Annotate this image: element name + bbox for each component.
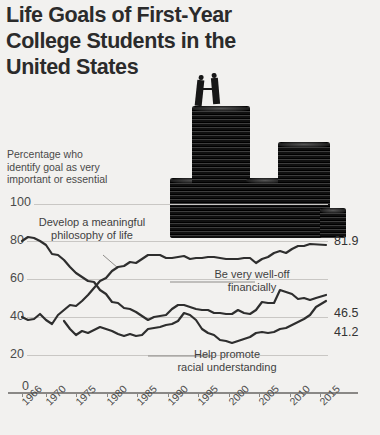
handshake-icon [202, 88, 215, 90]
annotation-racial-line-2: racial understanding [152, 361, 302, 374]
annotation-racial-line-1: Help promote [152, 348, 302, 361]
annotation-financial-line-1: Be very well-off [190, 268, 314, 281]
chart-subtitle: Percentage who identify goal as very imp… [7, 148, 157, 186]
end-label-philosophy: 41.2 [334, 325, 358, 339]
annotation-financial-line-2: financially [190, 281, 314, 294]
end-label-financial: 81.9 [334, 234, 358, 248]
annotation-financial: Be very well-off financially [190, 268, 314, 294]
subtitle-line-3: important or essential [7, 173, 157, 186]
title-line-2: College Students in the [6, 28, 306, 54]
line-chart: 100 80 60 40 20 0 Develop a meaningful p… [0, 196, 380, 396]
annotation-philosophy: Develop a meaningful philosophy of life [22, 216, 162, 242]
annotation-philosophy-line-2: philosophy of life [22, 229, 162, 242]
subtitle-line-2: identify goal as very [7, 161, 157, 174]
series-line-racial [64, 301, 326, 343]
infographic-page: Life Goals of First-Year College Student… [0, 0, 380, 435]
subtitle-line-1: Percentage who [7, 148, 157, 161]
title-line-1: Life Goals of First-Year [6, 2, 306, 28]
end-label-racial: 46.5 [334, 306, 358, 320]
annotation-philosophy-line-1: Develop a meaningful [22, 216, 162, 229]
annotation-racial: Help promote racial understanding [152, 348, 302, 374]
leader-philosophy [103, 255, 118, 268]
